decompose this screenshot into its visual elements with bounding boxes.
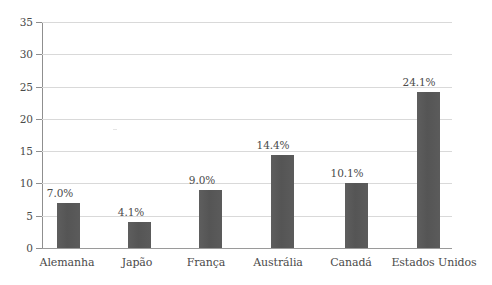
bar-australia[interactable]	[271, 155, 294, 248]
y-tick-0	[36, 248, 42, 249]
y-axis-label-15: 15	[0, 145, 33, 157]
bar-estados-unidos[interactable]	[417, 92, 440, 248]
bar-fill	[199, 190, 222, 248]
plot-area	[42, 22, 452, 248]
bar-chart: 35 30 25 20 15 10 5 0 7.0% 4.1% 9.0% 14.…	[0, 0, 492, 285]
category-label-australia: Austrália	[238, 256, 318, 269]
y-axis-label-0: 0	[0, 242, 33, 254]
bar-fill	[271, 155, 294, 248]
y-axis-label-10: 10	[0, 177, 33, 189]
category-label-japao: Japão	[101, 256, 173, 269]
bar-fill	[128, 222, 151, 248]
value-label-franca: 9.0%	[177, 174, 227, 186]
bar-alemanha[interactable]	[57, 203, 80, 248]
category-label-estados-unidos: Estados Unidos	[379, 256, 489, 269]
bar-japao[interactable]	[128, 222, 151, 248]
bar-fill	[57, 203, 80, 248]
y-axis-label-25: 25	[0, 81, 33, 93]
y-axis-label-5: 5	[0, 210, 33, 222]
axis-baseline	[42, 248, 452, 249]
value-label-japao: 4.1%	[106, 206, 156, 218]
y-axis-label-30: 30	[0, 48, 33, 60]
value-label-alemanha: 7.0%	[35, 187, 85, 199]
value-label-australia: 14.4%	[247, 139, 299, 151]
bar-fill	[345, 183, 368, 248]
category-label-alemanha: Alemanha	[20, 256, 114, 269]
bar-canada[interactable]	[345, 183, 368, 248]
bar-franca[interactable]	[199, 190, 222, 248]
value-label-canada: 10.1%	[321, 167, 373, 179]
bar-fill	[417, 92, 440, 248]
value-label-estados-unidos: 24.1%	[393, 76, 445, 88]
y-axis-label-35: 35	[0, 16, 33, 28]
category-label-franca: França	[168, 256, 244, 269]
y-axis-label-20: 20	[0, 113, 33, 125]
